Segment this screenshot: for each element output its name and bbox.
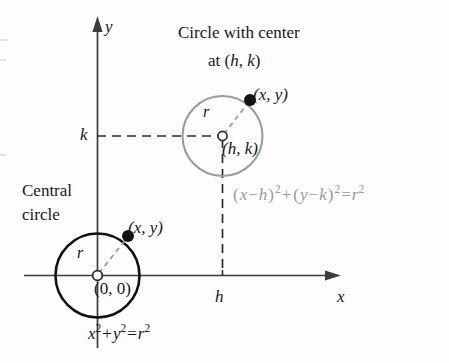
x-axis-label: x — [337, 288, 345, 305]
offset-circle-radius-line — [224, 103, 248, 134]
eq-minus-1: − — [247, 185, 259, 204]
eq-plus: + — [281, 185, 293, 204]
figure-title-line-1: Circle with center — [178, 24, 300, 41]
figure-title-line-2: at (h, k) — [208, 52, 260, 69]
y-axis-arrowhead — [92, 16, 102, 32]
title-sep: , — [239, 51, 248, 70]
circle-equations-figure: Circle with center at (h, k) y x k h Cen… — [0, 0, 449, 363]
eq-exponent-3: 2 — [358, 183, 364, 196]
x-axis — [24, 270, 341, 280]
origin-label: (0, 0) — [94, 280, 131, 297]
ceq-var-x: x — [88, 324, 96, 343]
y-axis-tick-label-k: k — [80, 126, 88, 143]
eq-exponent-1: 2 — [275, 183, 281, 196]
offset-circle-equation: (x−h)2+(y−k)2=r2 — [232, 186, 364, 203]
offset-circle-radius-label: r — [203, 104, 209, 120]
title-h: h — [230, 51, 239, 70]
title-k: k — [247, 51, 255, 70]
title-prefix: at ( — [208, 51, 230, 70]
offset-circle-point-label: (x, y) — [253, 86, 288, 103]
eq-close-paren-1: ) — [267, 185, 275, 204]
title-suffix: ) — [255, 51, 261, 70]
ceq-exponent-3: 2 — [144, 322, 150, 335]
eq-minus-2: − — [308, 185, 320, 204]
central-circle-point-label: (x, y) — [128, 219, 163, 236]
eq-open-paren-1: ( — [232, 185, 240, 204]
ceq-equals: = — [126, 324, 138, 343]
x-axis-arrowhead — [325, 270, 341, 280]
central-circle-caption-line-2: circle — [22, 206, 60, 223]
eq-var-y: y — [300, 185, 308, 204]
central-circle-equation: x2+y2=r2 — [88, 325, 150, 342]
offset-circle-center-label: (h, k) — [222, 140, 258, 157]
central-circle-radius-line — [99, 238, 127, 273]
scan-edge-marks — [0, 40, 7, 155]
y-axis — [92, 16, 102, 348]
central-circle-caption-line-1: Central — [22, 182, 72, 199]
x-axis-tick-label-h: h — [215, 288, 224, 305]
central-circle-radius-label: r — [77, 245, 83, 261]
eq-var-k: k — [319, 185, 327, 204]
ceq-plus: + — [101, 324, 113, 343]
y-axis-label: y — [105, 18, 113, 35]
eq-open-paren-2: ( — [292, 185, 300, 204]
eq-equals: = — [340, 185, 352, 204]
